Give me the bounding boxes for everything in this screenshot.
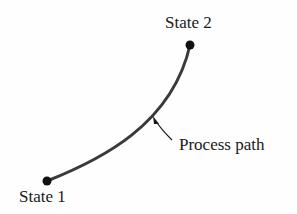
state2-point [186, 41, 195, 50]
state2-label: State 2 [165, 14, 212, 31]
state1-point [43, 177, 52, 186]
process-path-curve [47, 45, 190, 181]
process-path-label: Process path [179, 136, 264, 153]
process-diagram: State 2 State 1 Process path [0, 0, 297, 214]
diagram-graphics [0, 0, 297, 214]
pointer-arrowhead-icon [153, 116, 159, 124]
state1-label: State 1 [19, 188, 66, 205]
